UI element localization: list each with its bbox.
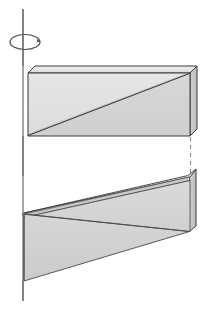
rotation-direction-ellipse [10,35,40,50]
rotation-direction-icon [10,35,40,50]
upper-slab [28,66,197,136]
technical-figure [0,0,209,310]
lower-wedge [22,169,196,281]
upper-slab-side-face [190,66,197,136]
figure-canvas [0,0,209,310]
upper-slab-top-bevel-face [28,66,197,73]
